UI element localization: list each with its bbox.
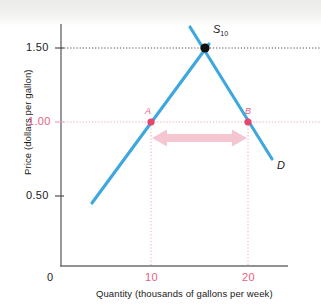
equilibrium-point-marker <box>200 43 209 52</box>
supply-curve-label-subscript: 10 <box>220 30 228 37</box>
demand-curve-label: D <box>277 160 285 171</box>
point-a-label: A <box>145 107 151 116</box>
x-tick-label-20: 20 <box>242 272 255 283</box>
supply-curve-label: S10 <box>213 24 228 37</box>
x-tick-label-10: 10 <box>145 272 158 283</box>
point-b-marker <box>244 118 251 125</box>
y-tick-label-050: 0.50 <box>26 190 49 201</box>
supply-demand-figure: Price (dollars per gallon) Quantity (tho… <box>0 0 321 306</box>
point-a-marker <box>147 118 154 125</box>
x-tick-label-origin: 0 <box>47 272 53 283</box>
point-b-label: B <box>245 107 251 116</box>
shortage-arrow <box>152 130 247 147</box>
y-tick-label-100: 1.00 <box>28 116 51 127</box>
y-tick-label-150: 1.50 <box>26 42 49 53</box>
x-axis-title: Quantity (thousands of gallons per week) <box>96 289 273 299</box>
